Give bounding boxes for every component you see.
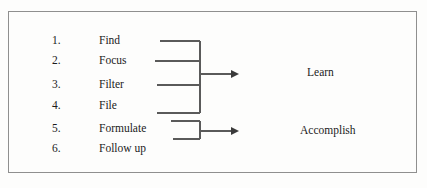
step-number: 2. [52,51,74,70]
step-number: 3. [52,75,74,94]
step-label: Focus [99,51,126,70]
step-label: Find [99,31,120,50]
step-label: Follow up [99,139,146,158]
group-label-accomplish: Accomplish [300,124,356,136]
step-number: 1. [52,31,74,50]
step-number: 5. [52,119,74,138]
step-label: File [99,96,117,115]
step-label: Filter [99,75,124,94]
step-number: 6. [52,139,74,158]
step-label: Formulate [99,119,146,138]
step-number: 4. [52,96,74,115]
figure-canvas: 1. Find 2. Focus 3. Filter 4. File 5. Fo… [0,0,427,188]
group-label-learn: Learn [307,66,334,78]
